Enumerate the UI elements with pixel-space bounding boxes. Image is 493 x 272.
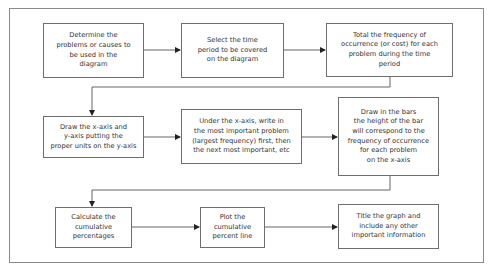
step-6-draw-bars: Draw in the bars the height of the bar w…: [338, 97, 439, 176]
step-8-plot-cumulative-line: Plot the cumulative percent line: [200, 207, 265, 248]
step-9-title-graph: Title the graph and include any other im…: [338, 204, 439, 249]
step-1-determine-problems: Determine the problems or causes to be u…: [43, 23, 144, 78]
step-5-write-problems: Under the x-axis, write in the most impo…: [181, 109, 302, 164]
step-7-calculate-cumulative: Calculate the cumulative percentages: [55, 207, 132, 248]
step-3-total-frequency: Total the frequency of occurrence (or co…: [326, 23, 453, 77]
step-4-draw-axes: Draw the x-axis and y-axis putting the p…: [43, 116, 144, 158]
step-2-select-time-period: Select the time period to be covered on …: [181, 23, 284, 78]
